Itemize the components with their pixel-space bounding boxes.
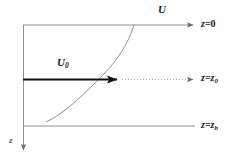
label-axis-z-symbol: z	[9, 135, 13, 145]
label-free-stream-velocity: U	[158, 4, 166, 15]
label-level-z-z0: z=z0	[201, 73, 218, 85]
label-level-z-z0-value-subscript: 0	[215, 77, 219, 85]
label-level-z-zb: z=zb	[201, 120, 218, 132]
label-level-z-zb-value-subscript: b	[215, 124, 219, 132]
label-reference-velocity-symbol: U	[57, 56, 65, 68]
label-level-z-zero: z=0	[201, 19, 216, 29]
label-reference-velocity-subscript: 0	[65, 61, 69, 70]
velocity-profile-figure: U U0 z=0 z=z0 z=zb z	[0, 0, 246, 159]
label-axis-z: z	[9, 136, 13, 145]
label-level-z-zero-value: 0	[211, 18, 216, 29]
label-reference-velocity: U0	[57, 57, 69, 69]
velocity-profile-curve	[46, 25, 134, 122]
label-free-stream-velocity-symbol: U	[158, 3, 166, 15]
